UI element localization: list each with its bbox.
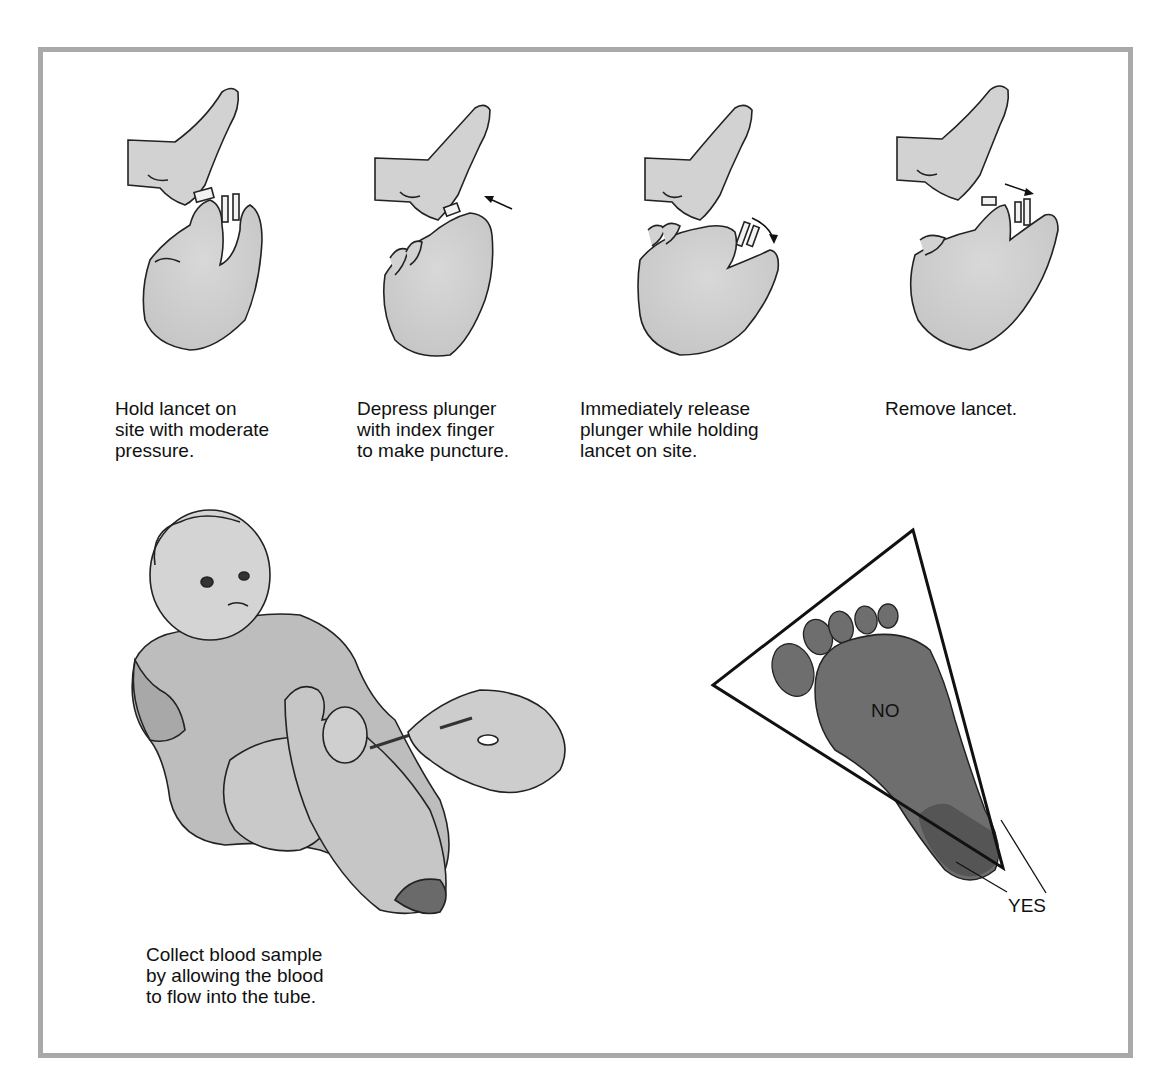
figure-illustrations [0, 0, 1158, 1088]
no-zone-label: NO [871, 700, 900, 722]
step-4-caption: Remove lancet. [885, 398, 1017, 419]
step-4-illustration [897, 86, 1058, 350]
infant-collection-illustration [132, 510, 565, 914]
collection-caption: Collect blood sample by allowing the blo… [146, 944, 323, 1007]
step-3-caption: Immediately release plunger while holdin… [580, 398, 759, 461]
step-1-illustration [128, 89, 262, 351]
step-1-caption: Hold lancet on site with moderate pressu… [115, 398, 269, 461]
step-3-illustration [638, 105, 778, 355]
push-arrow-icon [484, 196, 512, 209]
remove-arrow-icon [1005, 184, 1034, 196]
step-2-caption: Depress plunger with index finger to mak… [357, 398, 509, 461]
yes-zone-label: YES [1008, 895, 1046, 917]
step-2-illustration [375, 105, 493, 356]
